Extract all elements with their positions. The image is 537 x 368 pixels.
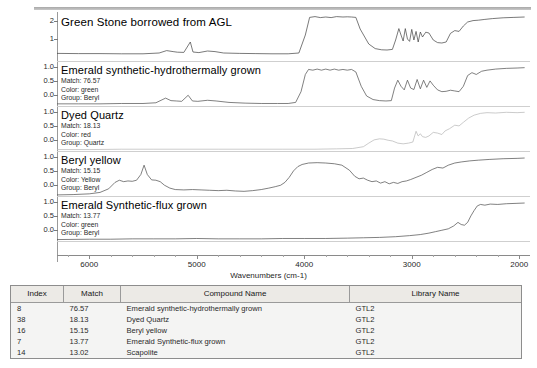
row-match: 18.13: [64, 314, 121, 325]
x-minor-tick: [240, 255, 241, 257]
table-row[interactable]: 1615.15Beryl yellowGTL2: [11, 325, 521, 336]
x-tick-mark: [412, 255, 413, 259]
x-axis-line: [57, 255, 530, 256]
x-tick-label: 5000: [188, 260, 206, 269]
x-minor-tick: [111, 255, 112, 257]
row-index: 7: [11, 336, 64, 347]
row-index: 16: [11, 325, 64, 336]
row-library: GTL2: [350, 303, 522, 315]
x-minor-tick: [175, 255, 176, 257]
table-row[interactable]: 1413.02ScapoliteGTL2: [11, 347, 521, 358]
spectrum-curve-4: [57, 153, 530, 196]
row-index: 8: [11, 303, 64, 315]
x-axis-title: Wavenumbers (cm-1): [0, 271, 537, 280]
row-compound: Beryl yellow: [121, 325, 350, 336]
table-row[interactable]: 713.77Emerald Synthetic-flux grownGTL2: [11, 336, 521, 347]
column-header-compound[interactable]: Compound Name: [121, 286, 350, 303]
row-match: 13.77: [64, 336, 121, 347]
row-index: 14: [11, 347, 64, 358]
x-minor-tick: [433, 255, 434, 257]
x-minor-tick: [154, 255, 155, 257]
row-library: GTL2: [350, 347, 522, 358]
x-minor-tick: [498, 255, 499, 257]
table-row[interactable]: 876.57Emerald synthetic-hydrothermally g…: [11, 303, 521, 315]
window-top-divider: [34, 7, 531, 10]
row-compound: Scapolite: [121, 347, 350, 358]
row-compound: Emerald Synthetic-flux grown: [121, 336, 350, 347]
spectrum-curve-5: [57, 198, 530, 241]
x-minor-tick: [283, 255, 284, 257]
row-library: GTL2: [350, 325, 522, 336]
row-match: 13.02: [64, 347, 121, 358]
spectrum-curve-1: [57, 13, 530, 61]
column-header-index[interactable]: Index: [11, 286, 64, 303]
table-header-row: Index Match Compound Name Library Name: [11, 286, 521, 303]
row-library: GTL2: [350, 314, 522, 325]
column-header-match[interactable]: Match: [64, 286, 121, 303]
x-minor-tick: [132, 255, 133, 257]
table-row[interactable]: 3818.13Dyed QuartzGTL2: [11, 314, 521, 325]
x-minor-tick: [68, 255, 69, 257]
x-tick-label: 4000: [295, 260, 313, 269]
x-tick-mark: [197, 255, 198, 259]
spectrum-curve-2: [57, 63, 530, 106]
x-minor-tick: [326, 255, 327, 257]
x-tick-label: 6000: [80, 260, 98, 269]
row-compound: Emerald synthetic-hydrothermally grown: [121, 303, 350, 315]
x-minor-tick: [390, 255, 391, 257]
panel-separator: [57, 241, 530, 242]
row-compound: Dyed Quartz: [121, 314, 350, 325]
row-match: 76.57: [64, 303, 121, 315]
x-minor-tick: [369, 255, 370, 257]
x-tick-label: 3000: [403, 260, 421, 269]
x-minor-tick: [261, 255, 262, 257]
x-minor-tick: [218, 255, 219, 257]
row-match: 15.15: [64, 325, 121, 336]
x-tick-mark: [89, 255, 90, 259]
x-tick-mark: [519, 255, 520, 259]
x-minor-tick: [455, 255, 456, 257]
spectrum-curve-3: [57, 108, 530, 151]
x-tick-label: 2000: [510, 260, 528, 269]
row-library: GTL2: [350, 336, 522, 347]
column-header-library[interactable]: Library Name: [350, 286, 522, 303]
x-minor-tick: [476, 255, 477, 257]
results-table-panel[interactable]: Index Match Compound Name Library Name 8…: [10, 285, 522, 359]
row-index: 38: [11, 314, 64, 325]
spectra-plot-area: 21Green Stone borrowed from AGL1.00.50.0…: [0, 12, 537, 262]
x-minor-tick: [347, 255, 348, 257]
x-tick-mark: [304, 255, 305, 259]
results-table: Index Match Compound Name Library Name 8…: [11, 286, 521, 358]
